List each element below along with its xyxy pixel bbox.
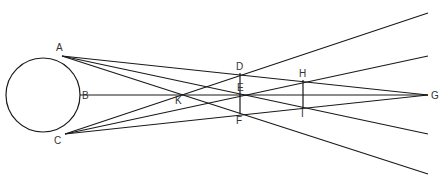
line-CG [65,95,428,134]
geometry-diagram: A B C D E F G H I K [0,0,440,190]
line-segments [62,13,428,174]
label-d: D [236,61,243,72]
label-c: C [54,135,61,146]
label-b: B [82,90,89,101]
sphere-circle [6,58,80,132]
label-f: F [236,115,242,126]
label-e: E [237,82,244,93]
label-a: A [56,42,63,53]
point-labels: A B C D E F G H I K [54,42,439,146]
label-i: I [301,108,304,119]
label-h: H [299,68,306,79]
line-AG [62,56,428,95]
label-g: G [431,90,439,101]
label-k: K [175,95,182,106]
